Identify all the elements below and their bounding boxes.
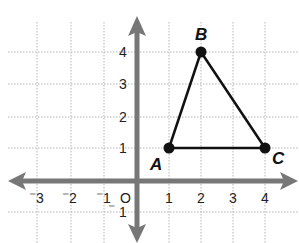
x-tick-4: 4 bbox=[261, 190, 269, 206]
svg-text:⁻: ⁻ bbox=[29, 188, 36, 204]
x-tick-neg2: 2 bbox=[69, 190, 77, 206]
svg-text:⁻: ⁻ bbox=[108, 200, 115, 216]
label-a: A bbox=[149, 155, 162, 174]
y-tick-1: 1 bbox=[119, 140, 127, 156]
point-b bbox=[196, 47, 207, 58]
y-tick-3: 3 bbox=[119, 76, 127, 92]
label-b: B bbox=[195, 25, 207, 44]
x-tick-labels: ⁻ 3 ⁻ 2 ⁻ 1 O 1 2 3 4 bbox=[29, 188, 269, 206]
svg-text:⁻: ⁻ bbox=[96, 188, 103, 204]
coordinate-plane: ⁻ 3 ⁻ 2 ⁻ 1 O 1 2 3 4 4 3 2 1 ⁻ 1 A B C bbox=[0, 0, 299, 243]
label-c: C bbox=[272, 149, 285, 168]
point-c bbox=[260, 143, 271, 154]
x-tick-2: 2 bbox=[197, 190, 205, 206]
axes bbox=[8, 16, 298, 243]
y-tick-neg1: 1 bbox=[119, 204, 127, 220]
x-tick-1: 1 bbox=[165, 190, 173, 206]
point-a bbox=[164, 143, 175, 154]
y-tick-4: 4 bbox=[119, 44, 127, 60]
x-tick-neg3: 3 bbox=[36, 190, 44, 206]
svg-text:⁻: ⁻ bbox=[62, 188, 69, 204]
x-tick-3: 3 bbox=[229, 190, 237, 206]
y-tick-2: 2 bbox=[119, 109, 127, 125]
